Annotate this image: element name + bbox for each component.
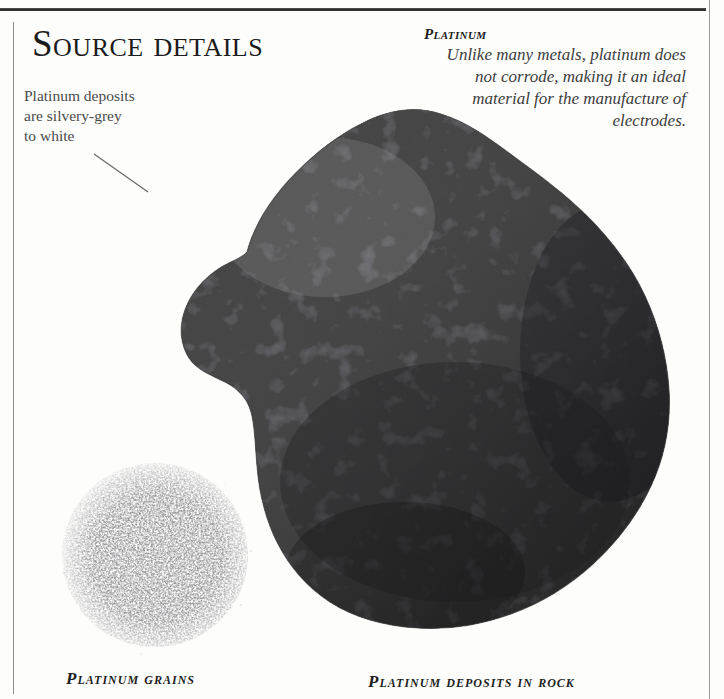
figure-caption-platinum-deposits-in-rock: Platinum deposits in rock [368,672,575,692]
encyclopedia-page: Source details Platinum Unlike many meta… [0,0,724,699]
leader-line [90,150,160,200]
platinum-info-body: Unlike many metals, platinum does not co… [424,44,686,132]
left-vertical-rule [13,22,14,694]
page-title: Source details [32,22,263,65]
annotation-platinum-colour: Platinum deposits are silvery-grey to wh… [24,86,136,146]
platinum-grains-image [55,455,260,660]
platinum-info-heading: Platinum [424,26,686,43]
figure-caption-platinum-grains: Platinum grains [66,669,195,689]
top-horizontal-rule [0,8,706,11]
platinum-info-panel: Platinum Unlike many metals, platinum do… [424,26,686,132]
